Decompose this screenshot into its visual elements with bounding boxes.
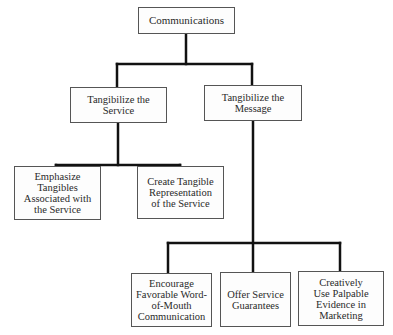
- node-emphasize-tangibles: Emphasize Tangibles Associated with the …: [14, 166, 101, 220]
- node-creatively-use-palpable-evidence: Creatively Use Palpable Evidence in Mark…: [298, 271, 384, 326]
- node-encourage-word-of-mouth: Encourage Favorable Word-of-Mouth Commun…: [131, 273, 212, 327]
- node-tangibilize-message: Tangibilize the Message: [204, 85, 302, 121]
- node-tangibilize-service: Tangibilize the Service: [70, 87, 167, 123]
- node-label: Creatively Use Palpable Evidence in Mark…: [310, 277, 372, 321]
- node-label: Offer Service Guarantees: [226, 289, 286, 311]
- node-label: Tangibilize the Service: [84, 94, 154, 116]
- node-communications: Communications: [138, 7, 235, 34]
- node-label: Communications: [149, 15, 224, 26]
- node-label: Tangibilize the Message: [218, 92, 288, 114]
- node-label: Create Tangible Representation of the Se…: [147, 176, 215, 209]
- node-label: Emphasize Tangibles Associated with the …: [23, 171, 93, 215]
- node-create-tangible-representation: Create Tangible Representation of the Se…: [137, 166, 224, 219]
- node-offer-service-guarantees: Offer Service Guarantees: [220, 272, 291, 327]
- node-label: Encourage Favorable Word-of-Mouth Commun…: [134, 278, 209, 322]
